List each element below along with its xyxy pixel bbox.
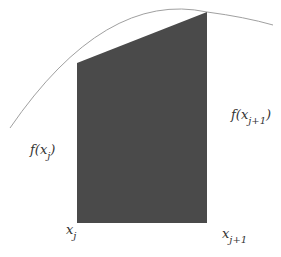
- trapezoid-diagram: [0, 0, 281, 257]
- label-f-xj1: f(xj+1): [231, 107, 271, 126]
- label-f-xj: f(xj): [30, 142, 55, 161]
- trapezoid-area: [77, 12, 207, 223]
- label-xj: xj: [66, 222, 76, 241]
- label-xj1: xj+1: [222, 226, 247, 245]
